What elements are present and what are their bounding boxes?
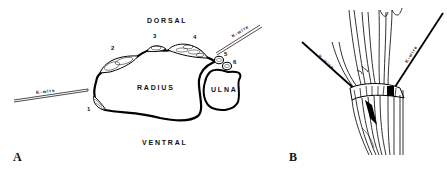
wrist-dorsal-drawing (262, 0, 447, 174)
compartment-4-label: 4 (193, 34, 196, 40)
compartment-5 (215, 56, 224, 64)
compartment-1-label: 1 (87, 106, 90, 112)
panel-b-letter: B (289, 150, 297, 165)
compartment-3-label: 3 (153, 33, 156, 39)
compartment-6 (223, 62, 232, 70)
compartment-5-label: 5 (224, 51, 227, 57)
k-wire-right (393, 13, 443, 90)
radius-label: RADIUS (137, 84, 175, 91)
ventral-label: VENTRAL (142, 139, 188, 146)
panel-a-letter: A (13, 150, 22, 165)
tendons (332, 8, 402, 88)
compartment-2-label: 2 (111, 45, 114, 51)
panel-b-dorsal-view: K-wire K-wire B (262, 0, 447, 174)
compartment-6-label: 6 (233, 59, 236, 65)
ulna-label: ULNA (211, 86, 238, 93)
forearm-structures (352, 90, 403, 155)
dorsal-label: DORSAL (147, 17, 187, 24)
compartment-3 (147, 46, 166, 52)
wrist-retinaculum (350, 84, 404, 101)
panel-a-cross-section: DORSAL VENTRAL RADIUS ULNA 1 2 3 4 5 6 K… (0, 0, 262, 174)
